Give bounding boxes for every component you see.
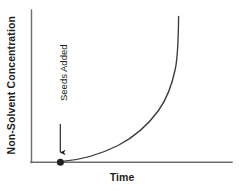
chart-plot-area [0,0,239,194]
seeding-point-marker [57,159,64,166]
x-axis-label-text: Time [110,171,135,183]
seeds-added-annotation-text: Seeds Added [58,45,68,102]
y-axis-label-text: Non-Solvent Concentration [6,16,17,154]
chart-figure: Non-Solvent Concentration Time Seeds Add… [0,0,239,194]
x-axis-label: Time [86,172,158,183]
seeds-added-annotation: Seeds Added [38,28,88,118]
y-axis-label: Non-Solvent Concentration [0,0,22,170]
